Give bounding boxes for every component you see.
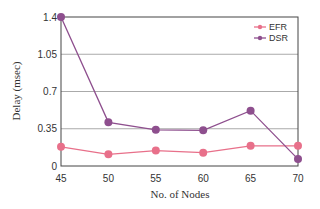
data-point-marker bbox=[104, 118, 112, 126]
y-tick-label: 0 bbox=[51, 161, 57, 172]
legend: EFRDSR bbox=[254, 22, 289, 43]
x-tick-label: 60 bbox=[198, 173, 210, 184]
x-axis-ticks: 455055606570 bbox=[55, 173, 304, 184]
gridlines bbox=[61, 54, 298, 129]
x-tick-label: 70 bbox=[292, 173, 304, 184]
data-series bbox=[57, 13, 302, 163]
y-tick-label: 1.05 bbox=[38, 49, 58, 60]
series-efr bbox=[57, 142, 302, 159]
x-axis-title: No. of Nodes bbox=[151, 188, 210, 200]
legend-label: EFR bbox=[269, 22, 288, 32]
data-point-marker bbox=[104, 150, 112, 158]
y-axis-ticks: 00.350.71.051.4 bbox=[38, 12, 58, 172]
data-point-marker bbox=[247, 142, 255, 150]
x-tick-label: 45 bbox=[55, 173, 67, 184]
y-axis-title: Delay (msec) bbox=[10, 61, 23, 120]
legend-label: DSR bbox=[269, 33, 289, 43]
data-point-marker bbox=[152, 147, 160, 155]
line-chart: 00.350.71.051.4 455055606570 No. of Node… bbox=[0, 0, 320, 209]
legend-swatch-marker bbox=[258, 36, 262, 40]
data-point-marker bbox=[57, 13, 65, 21]
data-point-marker bbox=[57, 143, 65, 151]
y-tick-label: 0.7 bbox=[43, 86, 57, 97]
x-tick-label: 50 bbox=[103, 173, 115, 184]
legend-swatch-marker bbox=[258, 25, 262, 29]
data-point-marker bbox=[199, 126, 207, 134]
x-tick-label: 55 bbox=[150, 173, 162, 184]
series-line bbox=[61, 146, 298, 155]
y-tick-label: 1.4 bbox=[43, 12, 57, 23]
x-tick-label: 65 bbox=[245, 173, 257, 184]
series-dsr bbox=[57, 13, 302, 163]
data-point-marker bbox=[294, 155, 302, 163]
y-tick-label: 0.35 bbox=[38, 123, 58, 134]
data-point-marker bbox=[247, 107, 255, 115]
data-point-marker bbox=[199, 149, 207, 157]
data-point-marker bbox=[294, 142, 302, 150]
data-point-marker bbox=[152, 126, 160, 134]
